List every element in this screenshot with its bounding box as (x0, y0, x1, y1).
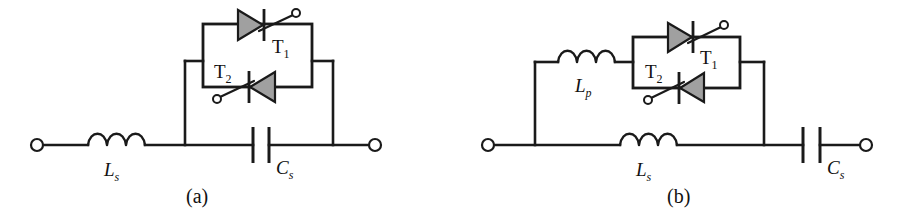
label-b-Lp-sub: p (586, 86, 592, 100)
label-b-Cs-main: C (827, 157, 840, 178)
label-a-thyristor-t1: T1 (272, 37, 290, 60)
circuit-a (31, 9, 381, 163)
label-a-series-capacitor: Cs (276, 158, 293, 181)
label-b-thyristor-t2: T2 (645, 62, 663, 85)
label-b-series-inductor: Ls (636, 160, 651, 183)
circuit-schematic-drawing (0, 0, 901, 223)
label-a-T1-main: T (272, 36, 284, 57)
caption-b: (b) (667, 186, 690, 206)
label-b-Ls-sub: s (647, 170, 652, 184)
label-b-T2-sub: 2 (657, 72, 663, 86)
label-b-Cs-sub: s (840, 168, 845, 182)
label-b-series-capacitor: Cs (827, 158, 844, 181)
label-b-parallel-inductor: Lp (575, 76, 592, 99)
b-right-terminal (860, 139, 872, 151)
b-thyristor-t2-triangle (680, 73, 704, 102)
b-thyristor-t1-gate-terminal (720, 21, 728, 29)
label-a-T1-sub: 1 (284, 47, 290, 61)
a-series-inductor-coil (88, 134, 145, 145)
b-left-terminal (482, 139, 494, 151)
a-left-terminal (31, 139, 43, 151)
a-thyristor-t2-triangle (250, 72, 275, 102)
label-b-T1-main: T (700, 47, 712, 68)
label-a-T2-sub: 2 (226, 72, 232, 86)
a-thyristor-t2-gate-terminal (213, 95, 221, 103)
label-a-Ls-sub: s (115, 170, 120, 184)
b-parallel-inductor-coil (558, 51, 615, 62)
a-right-terminal (369, 139, 381, 151)
b-thyristor-t2-gate-terminal (644, 96, 652, 104)
label-a-Cs-sub: s (289, 168, 294, 182)
label-a-T2-main: T (214, 61, 226, 82)
b-thyristor-t1-triangle (668, 23, 692, 52)
circuit-figure: Ls Cs T1 T2 (a) Lp Ls Cs T1 T2 (b) (0, 0, 901, 223)
caption-a: (a) (186, 186, 208, 206)
b-series-inductor-coil (620, 134, 677, 145)
label-a-thyristor-t2: T2 (214, 62, 232, 85)
label-a-Ls-main: L (104, 159, 115, 180)
label-b-thyristor-t1: T1 (700, 48, 718, 71)
label-a-series-inductor: Ls (104, 160, 119, 183)
label-b-T1-sub: 1 (712, 58, 718, 72)
circuit-b (482, 21, 872, 163)
a-thyristor-t1-triangle (238, 10, 263, 40)
label-b-Lp-main: L (575, 75, 586, 96)
a-thyristor-t1-gate-terminal (292, 9, 300, 17)
label-b-Ls-main: L (636, 159, 647, 180)
label-b-T2-main: T (645, 61, 657, 82)
label-a-Cs-main: C (276, 157, 289, 178)
